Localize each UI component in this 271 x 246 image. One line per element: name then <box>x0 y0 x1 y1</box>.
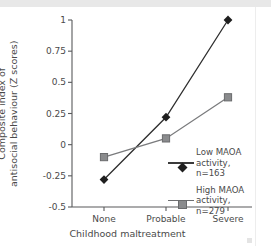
legend-square-icon <box>168 192 194 208</box>
x-tick-label: None <box>92 214 115 224</box>
legend-item-high-maoa: High MAOA activity, n=279 <box>168 185 258 217</box>
data-point-high-maoa-probable <box>162 135 169 142</box>
y-tick-label: 0.25 <box>30 109 66 119</box>
legend-label-high-maoa-line1: High MAOA <box>196 185 244 195</box>
legend-label-high-maoa-line2: activity, n=279 <box>196 195 230 216</box>
data-point-high-maoa-severe <box>224 94 231 101</box>
data-point-high-maoa-none <box>100 154 107 161</box>
y-tick-label: 0.5 <box>30 77 66 87</box>
y-tick-label: 0 <box>30 140 66 150</box>
legend-label-high-maoa: High MAOA activity, n=279 <box>194 185 258 217</box>
y-axis-title-line2: antisocial behaviour (Z scores) <box>8 40 20 186</box>
legend-diamond-icon <box>168 155 194 171</box>
data-point-low-maoa-severe <box>224 16 233 25</box>
y-axis-title-line1: Composite index of <box>0 40 8 186</box>
figure-panel: 10.750.50.250-0.25-0.5 NoneProbableSever… <box>0 0 271 246</box>
y-axis-title: Composite index of antisocial behaviour … <box>0 40 20 186</box>
legend-item-low-maoa: Low MAOA activity, n=163 <box>168 147 258 179</box>
x-axis-title: Childhood maltreatment <box>0 228 255 239</box>
legend-label-low-maoa-line2: activity, n=163 <box>196 158 230 179</box>
plot-area: 10.750.50.250-0.25-0.5 NoneProbableSever… <box>0 0 271 246</box>
chart-legend: Low MAOA activity, n=163 High MAOA activ… <box>168 147 258 222</box>
y-tick-label: -0.25 <box>30 171 66 181</box>
y-tick-label: 0.75 <box>30 46 66 56</box>
y-tick-label: -0.5 <box>30 202 66 212</box>
legend-label-low-maoa-line1: Low MAOA <box>196 147 241 157</box>
y-tick-label: 1 <box>30 15 66 25</box>
legend-label-low-maoa: Low MAOA activity, n=163 <box>194 147 258 179</box>
